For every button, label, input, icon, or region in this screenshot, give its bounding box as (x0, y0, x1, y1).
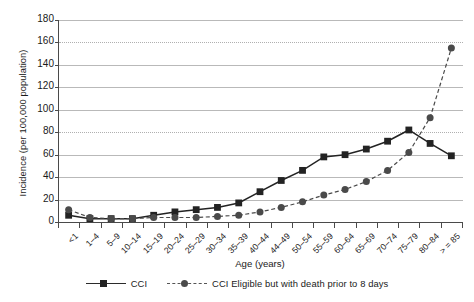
x-tick-mark (441, 223, 442, 228)
x-tick-mark (207, 223, 208, 228)
x-tick-label: 1–4 (84, 231, 101, 248)
y-tick-mark (55, 65, 59, 66)
x-tick-label: 50–54 (289, 231, 313, 255)
x-tick-label: 10–14 (119, 231, 143, 255)
legend-item-cci-eligible: CCI Eligible but with death prior to 8 d… (167, 278, 388, 289)
y-tick-mark (55, 20, 59, 21)
x-tick-label: 15–19 (140, 231, 164, 255)
x-tick-mark (122, 223, 123, 228)
y-tick-mark (55, 155, 59, 156)
x-tick-label: <1 (66, 231, 80, 245)
x-tick-mark (58, 223, 59, 228)
x-tick-mark (334, 223, 335, 228)
x-tick-label: > = 85 (438, 231, 463, 256)
x-tick-mark (79, 223, 80, 228)
dashed-line-circle-marker-icon (167, 278, 207, 289)
y-gridline (59, 42, 463, 43)
legend-item-cci: CCI (86, 278, 147, 289)
y-tick-label: 180 (2, 13, 54, 24)
x-tick-label: 55–59 (311, 231, 335, 255)
y-tick-mark (55, 132, 59, 133)
y-gridline (59, 177, 463, 178)
incidence-by-age-line-chart: Incidence (per 100,000 population) 02040… (0, 0, 474, 302)
x-tick-mark (419, 223, 420, 228)
y-tick-mark (55, 87, 59, 88)
y-tick-label: 160 (2, 35, 54, 46)
legend-label-cci-eligible: CCI Eligible but with death prior to 8 d… (212, 278, 388, 289)
y-gridline (59, 87, 463, 88)
x-tick-label: 40–44 (247, 231, 271, 255)
x-tick-mark (186, 223, 187, 228)
y-tick-label: 140 (2, 58, 54, 69)
y-tick-label: 40 (2, 170, 54, 181)
y-gridline (59, 132, 463, 133)
y-tick-mark (55, 177, 59, 178)
y-tick-mark (55, 42, 59, 43)
y-gridline (59, 110, 463, 111)
x-tick-label: 20–24 (162, 231, 186, 255)
y-gridline (59, 65, 463, 66)
x-tick-mark (313, 223, 314, 228)
legend-label-cci: CCI (131, 278, 147, 289)
x-tick-label: 80–84 (417, 231, 441, 255)
x-tick-mark (249, 223, 250, 228)
x-tick-mark (398, 223, 399, 228)
y-tick-label: 0 (2, 215, 54, 226)
plot-area: 020406080100120140160180 (58, 20, 462, 222)
x-tick-label: 70–74 (374, 231, 398, 255)
y-tick-mark (55, 110, 59, 111)
x-tick-label: 75–79 (396, 231, 420, 255)
chart-legend: CCI CCI Eligible but with death prior to… (0, 278, 474, 289)
x-tick-mark (164, 223, 165, 228)
x-axis-line: <11–45–910–1415–1920–2425–2930–3435–3940… (58, 222, 462, 223)
x-tick-label: 35–39 (225, 231, 249, 255)
y-tick-label: 120 (2, 80, 54, 91)
x-tick-label: 60–64 (332, 231, 356, 255)
y-gridline (59, 20, 463, 21)
x-tick-mark (377, 223, 378, 228)
x-tick-mark (292, 223, 293, 228)
x-tick-mark (228, 223, 229, 228)
x-tick-label: 25–29 (183, 231, 207, 255)
x-tick-mark (462, 223, 463, 228)
solid-line-square-marker-icon (86, 278, 126, 289)
x-tick-label: 44–49 (268, 231, 292, 255)
x-tick-mark (356, 223, 357, 228)
x-tick-mark (101, 223, 102, 228)
y-tick-label: 100 (2, 103, 54, 114)
y-tick-mark (55, 200, 59, 201)
x-tick-label: 65–69 (353, 231, 377, 255)
y-tick-label: 60 (2, 148, 54, 159)
y-tick-label: 80 (2, 125, 54, 136)
x-tick-mark (271, 223, 272, 228)
y-tick-label: 20 (2, 193, 54, 204)
x-tick-label: 30–34 (204, 231, 228, 255)
x-tick-mark (143, 223, 144, 228)
x-axis-title: Age (years) (58, 258, 462, 269)
y-gridline (59, 200, 463, 201)
y-gridline (59, 155, 463, 156)
